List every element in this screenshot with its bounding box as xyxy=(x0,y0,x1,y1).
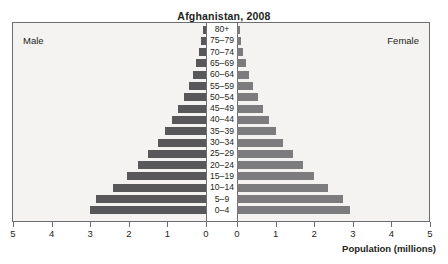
female-bar xyxy=(237,105,263,113)
female-bar xyxy=(237,71,249,79)
age-group-label: 45–49 xyxy=(206,103,238,114)
x-axis-tick xyxy=(276,222,277,227)
female-bar xyxy=(237,127,276,135)
female-bar xyxy=(237,150,293,158)
chart-title: Afghanistan, 2008 xyxy=(0,10,448,22)
x-axis-tick xyxy=(391,222,392,227)
female-bar xyxy=(237,172,314,180)
x-axis: 543210012345 xyxy=(12,222,430,223)
age-group-label: 65–69 xyxy=(206,58,238,69)
male-bar xyxy=(158,139,206,147)
age-group-label: 55–59 xyxy=(206,81,238,92)
x-axis-tick xyxy=(206,222,207,227)
x-axis-tick-label: 3 xyxy=(88,228,93,239)
x-axis-tick-label: 5 xyxy=(427,228,432,239)
x-axis-tick xyxy=(237,222,238,227)
female-bar xyxy=(237,206,350,214)
female-bar xyxy=(237,139,283,147)
bar-rows: 80+75–7970–7465–6960–6455–5950–5445–4940… xyxy=(13,23,429,221)
male-bar xyxy=(138,161,206,169)
x-axis-tick-label: 2 xyxy=(312,228,317,239)
female-bar xyxy=(237,59,246,67)
x-axis-tick xyxy=(90,222,91,227)
male-bar xyxy=(178,105,206,113)
male-bar xyxy=(193,71,206,79)
x-axis-tick-label: 1 xyxy=(165,228,170,239)
x-axis-tick-label: 0 xyxy=(234,228,239,239)
age-group-label: 35–39 xyxy=(206,126,238,137)
x-axis-tick-label: 1 xyxy=(273,228,278,239)
x-axis-tick-label: 4 xyxy=(389,228,394,239)
x-axis-tick-label: 3 xyxy=(350,228,355,239)
x-axis-tick xyxy=(13,222,14,227)
male-bar xyxy=(96,195,206,203)
x-axis-tick-label: 4 xyxy=(49,228,54,239)
plot-area: Male Female 80+75–7970–7465–6960–6455–59… xyxy=(12,22,430,222)
population-pyramid-chart: Afghanistan, 2008 Male Female 80+75–7970… xyxy=(0,0,448,264)
age-group-label: 70–74 xyxy=(206,47,238,58)
male-bar xyxy=(172,116,206,124)
age-group-label: 10–14 xyxy=(206,182,238,193)
male-bar xyxy=(148,150,206,158)
x-axis-title: Population (millions) xyxy=(342,243,436,254)
age-group-label: 25–29 xyxy=(206,148,238,159)
age-group-label: 60–64 xyxy=(206,69,238,80)
age-group-label: 50–54 xyxy=(206,92,238,103)
female-bar xyxy=(237,93,258,101)
male-bar xyxy=(127,172,206,180)
x-axis-tick xyxy=(314,222,315,227)
male-bar xyxy=(90,206,206,214)
x-axis-tick xyxy=(353,222,354,227)
age-group-label: 30–34 xyxy=(206,137,238,148)
female-bar xyxy=(237,195,343,203)
age-group-label: 0–4 xyxy=(206,205,238,216)
x-axis-tick-label: 5 xyxy=(10,228,15,239)
female-bar xyxy=(237,161,303,169)
female-bar xyxy=(237,82,253,90)
age-group-label: 20–24 xyxy=(206,160,238,171)
x-axis-tick xyxy=(167,222,168,227)
x-axis-tick-label: 0 xyxy=(203,228,208,239)
age-group-label: 75–79 xyxy=(206,35,238,46)
x-axis-tick-label: 2 xyxy=(126,228,131,239)
male-bar xyxy=(113,184,206,192)
female-bar xyxy=(237,184,328,192)
male-bar xyxy=(189,82,206,90)
x-axis-tick xyxy=(430,222,431,227)
male-bar xyxy=(199,48,206,56)
female-bar xyxy=(237,116,269,124)
age-group-label: 80+ xyxy=(206,24,238,35)
male-bar xyxy=(165,127,206,135)
x-axis-tick xyxy=(52,222,53,227)
age-group-label: 15–19 xyxy=(206,171,238,182)
male-bar xyxy=(184,93,206,101)
x-axis-tick xyxy=(129,222,130,227)
age-group-label: 40–44 xyxy=(206,114,238,125)
age-group-label: 5–9 xyxy=(206,194,238,205)
male-bar xyxy=(196,59,206,67)
